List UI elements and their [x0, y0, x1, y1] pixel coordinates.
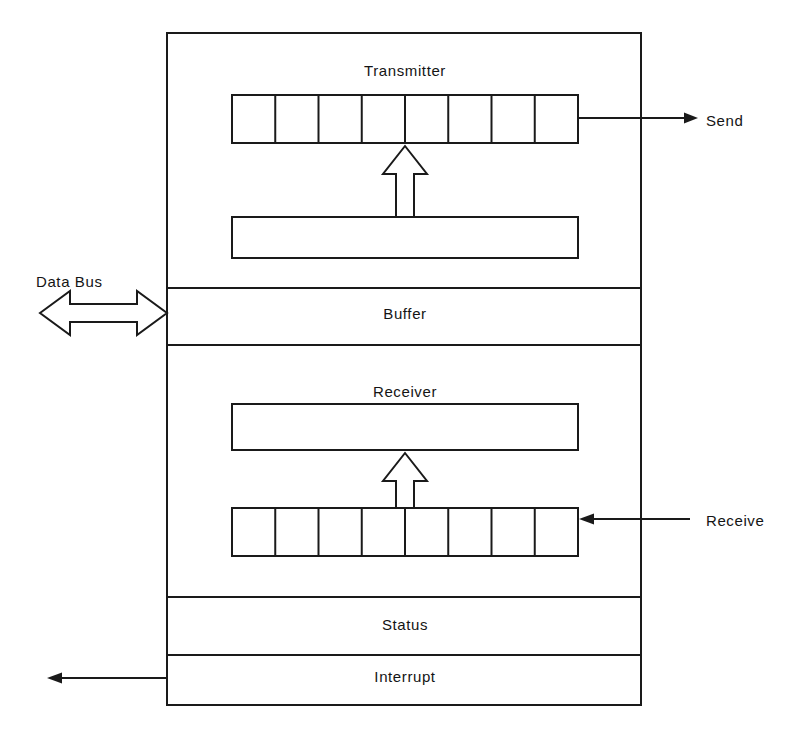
serial-interface-diagram: Transmitter Buffer Receiver Status Inter…	[0, 0, 804, 734]
transmitter-holding-register	[232, 217, 578, 258]
data-bus-arrow	[40, 291, 167, 335]
transmitter-shift-register	[232, 95, 578, 143]
receiver-shift-register	[232, 508, 578, 556]
label-send: Send	[706, 112, 743, 129]
send-arrowhead	[684, 113, 698, 124]
transmitter-data-path-arrow	[383, 146, 427, 217]
receiver-holding-register	[232, 404, 578, 450]
label-buffer: Buffer	[383, 305, 426, 322]
receiver-data-path-arrow	[383, 453, 427, 508]
receive-arrowhead	[579, 514, 594, 525]
label-data-bus: Data Bus	[36, 273, 103, 290]
label-transmitter: Transmitter	[364, 62, 446, 79]
label-interrupt: Interrupt	[374, 668, 435, 685]
label-status: Status	[382, 616, 428, 633]
interrupt-arrowhead	[47, 673, 62, 684]
label-receive: Receive	[706, 512, 764, 529]
label-receiver: Receiver	[373, 383, 437, 400]
